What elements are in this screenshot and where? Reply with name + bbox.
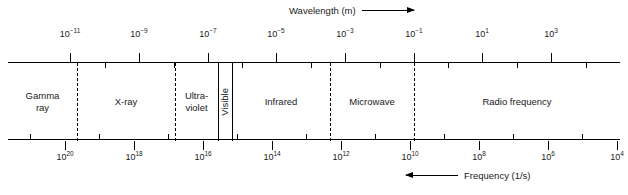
wavelength-axis: 10−1110−910−710−510−310−1101103 xyxy=(0,0,628,62)
frequency-tick-major xyxy=(203,141,204,150)
wavelength-tick-major xyxy=(70,53,71,62)
band-gamma-ray: Gammaray xyxy=(8,63,77,141)
frequency-tick-label: 1010 xyxy=(401,153,418,162)
band-label-text: Ultra-violet xyxy=(185,90,208,114)
band-x-ray: X-ray xyxy=(77,63,175,141)
frequency-tick-major xyxy=(410,141,411,150)
frequency-axis: 102010181016101410121010108106104 xyxy=(0,140,628,170)
frequency-axis-label: Frequency (1/s) xyxy=(464,171,531,181)
frequency-tick-major xyxy=(341,141,342,150)
frequency-tick-label: 1016 xyxy=(194,153,211,162)
band-label-text: Gammaray xyxy=(26,90,60,114)
band-microwave: Microwave xyxy=(330,63,414,141)
frequency-tick-minor xyxy=(168,134,169,139)
wavelength-tick-label: 10−7 xyxy=(199,30,216,39)
frequency-tick-minor xyxy=(444,134,445,139)
band-divider xyxy=(330,63,331,141)
frequency-tick-label: 1018 xyxy=(125,153,142,162)
frequency-tick-minor xyxy=(99,134,100,139)
band-ultraviolet: Ultra-violet xyxy=(175,63,218,141)
wavelength-tick-major xyxy=(551,53,552,62)
frequency-tick-label: 108 xyxy=(472,153,486,162)
frequency-tick-minor xyxy=(30,134,31,139)
band-label-text: Infrared xyxy=(265,96,298,108)
wavelength-tick-major xyxy=(276,53,277,62)
frequency-tick-label: 1012 xyxy=(332,153,349,162)
wavelength-tick-label: 10−3 xyxy=(336,30,353,39)
band-label-text: Radio frequency xyxy=(482,96,551,108)
frequency-tick-minor xyxy=(513,134,514,139)
wavelength-tick-major xyxy=(208,53,209,62)
frequency-tick-major xyxy=(479,141,480,150)
band-label-text: Microwave xyxy=(349,96,394,108)
band-visible: Visible xyxy=(218,63,232,141)
wavelength-tick-major xyxy=(345,53,346,62)
spectrum-bar: GammarayX-rayUltra-violetVisibleInfrared… xyxy=(8,62,620,140)
wavelength-tick-label: 10−11 xyxy=(60,30,81,39)
frequency-tick-label: 106 xyxy=(541,153,555,162)
band-divider xyxy=(414,63,415,141)
frequency-tick-major xyxy=(134,141,135,150)
frequency-tick-minor xyxy=(306,134,307,139)
band-label-text: Visible xyxy=(219,88,231,116)
wavelength-tick-label: 10−9 xyxy=(130,30,147,39)
band-infrared: Infrared xyxy=(232,63,330,141)
wavelength-tick-major xyxy=(414,53,415,62)
frequency-tick-label: 1020 xyxy=(56,153,73,162)
wavelength-tick-major xyxy=(139,53,140,62)
frequency-tick-minor xyxy=(237,134,238,139)
frequency-tick-major xyxy=(548,141,549,150)
electromagnetic-spectrum-figure: Wavelength (m) 10−1110−910−710−510−310−1… xyxy=(0,0,628,195)
frequency-tick-minor xyxy=(582,134,583,139)
band-divider xyxy=(218,63,219,141)
frequency-tick-major xyxy=(617,141,618,150)
wavelength-tick-label: 101 xyxy=(475,30,489,39)
frequency-tick-major xyxy=(272,141,273,150)
wavelength-tick-major xyxy=(482,53,483,62)
frequency-axis-caption: Frequency (1/s) xyxy=(406,171,531,181)
frequency-tick-label: 1014 xyxy=(263,153,280,162)
wavelength-tick-label: 10−5 xyxy=(267,30,284,39)
band-divider xyxy=(232,63,233,141)
arrow-left-icon xyxy=(406,172,458,179)
band-divider xyxy=(175,63,176,141)
wavelength-tick-label: 103 xyxy=(544,30,558,39)
frequency-tick-minor xyxy=(375,134,376,139)
band-divider xyxy=(77,63,78,141)
wavelength-tick-label: 10−1 xyxy=(405,30,422,39)
band-radio-frequency: Radio frequency xyxy=(414,63,620,141)
frequency-tick-label: 104 xyxy=(610,153,624,162)
band-label-text: X-ray xyxy=(115,96,138,108)
frequency-tick-major xyxy=(65,141,66,150)
